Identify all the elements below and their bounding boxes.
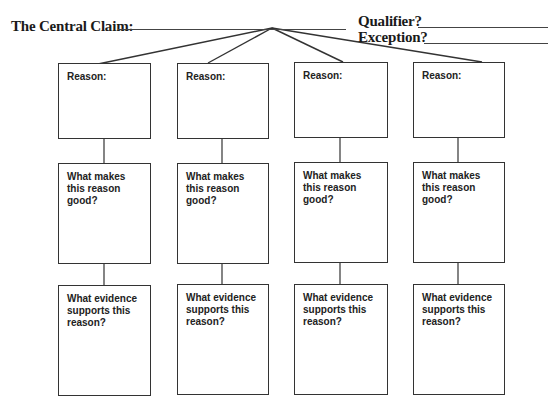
evidence-box-1[interactable]: What evidence supports this reason? <box>58 285 151 396</box>
qualifier-blank[interactable] <box>418 27 548 28</box>
reason-label: Reason: <box>67 71 144 83</box>
reason-label: Reason: <box>303 70 381 82</box>
reason-box-4[interactable]: Reason: <box>413 62 505 138</box>
quality-label: What makes this reason good? <box>422 170 498 206</box>
quality-box-4[interactable]: What makes this reason good? <box>413 162 505 263</box>
evidence-box-3[interactable]: What evidence supports this reason? <box>294 284 388 395</box>
reason-box-3[interactable]: Reason: <box>294 62 388 138</box>
exception-blank[interactable] <box>424 43 548 44</box>
fan-line-2 <box>208 28 272 63</box>
quality-box-3[interactable]: What makes this reason good? <box>294 162 388 263</box>
quality-label: What makes this reason good? <box>67 171 144 207</box>
reason-box-2[interactable]: Reason: <box>177 63 269 139</box>
evidence-label: What evidence supports this reason? <box>67 293 144 329</box>
quality-box-2[interactable]: What makes this reason good? <box>177 163 269 264</box>
quality-label: What makes this reason good? <box>303 170 381 206</box>
evidence-box-2[interactable]: What evidence supports this reason? <box>177 284 269 395</box>
evidence-label: What evidence supports this reason? <box>186 292 262 328</box>
reason-label: Reason: <box>186 71 262 83</box>
central-claim-blank[interactable] <box>118 29 346 30</box>
quality-box-1[interactable]: What makes this reason good? <box>58 163 151 264</box>
evidence-label: What evidence supports this reason? <box>422 292 498 328</box>
reason-label: Reason: <box>422 70 498 82</box>
exception-label: Exception? <box>358 29 428 46</box>
qualifier-label: Qualifier? <box>358 13 422 30</box>
reason-box-1[interactable]: Reason: <box>58 63 151 139</box>
evidence-label: What evidence supports this reason? <box>303 292 381 328</box>
evidence-box-4[interactable]: What evidence supports this reason? <box>413 284 505 395</box>
central-claim-label: The Central Claim: <box>11 18 133 35</box>
quality-label: What makes this reason good? <box>186 171 262 207</box>
